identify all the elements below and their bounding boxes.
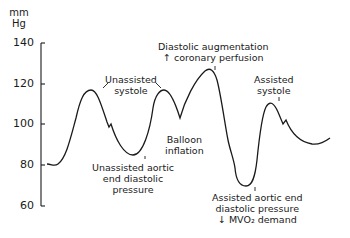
label-assisted-aedp: Assisted aortic end diastolic pressure ↓…	[212, 192, 303, 225]
label-line: Assisted aortic end	[212, 192, 303, 203]
label-unassisted-aedp: Unassisted aortic end diastolic pressure	[92, 162, 174, 195]
label-line: systole	[254, 85, 294, 96]
label-line: pressure	[92, 184, 174, 195]
label-line: Balloon	[165, 134, 204, 145]
label-line: Unassisted aortic	[92, 162, 174, 173]
label-balloon-inflation: Balloon inflation	[165, 134, 204, 156]
label-line: Assisted	[254, 74, 294, 85]
label-line: diastolic pressure	[212, 203, 303, 214]
label-line: end diastolic	[92, 173, 174, 184]
label-line: ↑ coronary perfusion	[158, 52, 269, 63]
label-line: ↓ MVO₂ demand	[212, 214, 303, 225]
label-line: Diastolic augmentation	[158, 41, 269, 52]
label-diastolic-augmentation: Diastolic augmentation ↑ coronary perfus…	[158, 41, 269, 63]
label-line: systole	[105, 85, 157, 96]
label-unassisted-systole: Unassisted systole	[105, 74, 157, 96]
label-assisted-systole: Assisted systole	[254, 74, 294, 96]
label-line: Unassisted	[105, 74, 157, 85]
y-axis	[41, 43, 45, 206]
label-line: inflation	[165, 145, 204, 156]
